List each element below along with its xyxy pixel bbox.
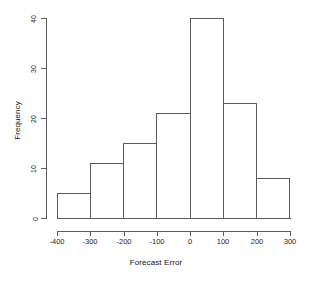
y-axis-tick: 20	[41, 118, 46, 119]
histogram-bar	[190, 18, 224, 218]
x-axis-tick	[157, 231, 158, 236]
x-axis-tick-label: 200	[251, 238, 264, 246]
y-axis-title-label: Frequency	[13, 101, 22, 140]
x-axis-tick	[190, 231, 191, 236]
x-axis-tick-label: 100	[217, 238, 230, 246]
histogram-bars	[57, 18, 290, 218]
y-axis-tick: 40	[41, 18, 46, 19]
y-axis-tick: 10	[41, 168, 46, 169]
x-axis-tick	[223, 231, 224, 236]
x-axis-line	[57, 231, 291, 232]
x-axis-tick	[290, 231, 291, 236]
x-axis-tick	[57, 231, 58, 236]
y-axis-tick-label: 30	[31, 65, 38, 73]
x-axis-tick-label: -400	[49, 238, 64, 246]
histogram-bar	[256, 178, 290, 218]
plot-baseline	[57, 218, 291, 219]
histogram-bar	[90, 163, 124, 218]
x-axis-tick-label: -300	[82, 238, 97, 246]
histogram-bar	[156, 113, 190, 218]
y-axis-tick-label: 0	[33, 217, 40, 221]
x-axis-tick-label: 300	[284, 238, 297, 246]
y-axis-title: Frequency	[10, 0, 24, 240]
y-axis-tick-label: 40	[31, 15, 38, 23]
x-axis-tick-label: 0	[188, 238, 192, 246]
y-axis-line	[46, 18, 47, 219]
histogram-figure: Frequency 010203040 -400-300-200-1000100…	[0, 0, 312, 285]
x-axis-tick-label: -200	[116, 238, 131, 246]
histogram-bar	[223, 103, 257, 218]
y-axis-tick-label: 10	[31, 165, 38, 173]
y-axis-tick: 30	[41, 68, 46, 69]
x-axis-tick	[90, 231, 91, 236]
histogram-bar	[57, 193, 91, 218]
y-axis-tick: 0	[41, 218, 46, 219]
plot-area	[57, 18, 290, 218]
histogram-bar	[123, 143, 157, 218]
x-axis-title: Forecast Error	[0, 258, 312, 267]
x-axis-tick-label: -100	[149, 238, 164, 246]
x-axis-tick	[124, 231, 125, 236]
x-axis-tick	[257, 231, 258, 236]
y-axis-tick-label: 20	[31, 115, 38, 123]
